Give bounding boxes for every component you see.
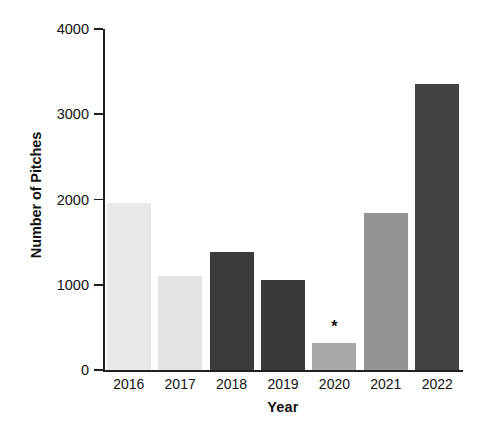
bar-2020 [312, 343, 356, 370]
bar-2016 [107, 203, 151, 370]
x-axis-title: Year [103, 399, 463, 415]
y-axis-tick-mark [94, 369, 103, 371]
y-axis-tick-mark [94, 199, 103, 201]
bar-2019 [261, 280, 305, 370]
y-axis-tick-label: 4000 [33, 21, 89, 37]
bar-2021 [364, 213, 408, 370]
bar-2017 [158, 276, 202, 370]
y-axis-tick-label: 3000 [33, 106, 89, 122]
bar-2022 [415, 84, 459, 370]
plot-area: * [103, 29, 463, 370]
y-axis-tick-mark [94, 284, 103, 286]
y-axis-tick-label: 0 [33, 362, 89, 378]
y-axis-tick-label: 2000 [33, 192, 89, 208]
y-axis-tick-mark [94, 28, 103, 30]
y-axis-tick-label: 1000 [33, 277, 89, 293]
bar-annotation-2020: * [314, 319, 354, 335]
x-axis-line [103, 370, 463, 372]
bar-2018 [210, 252, 254, 370]
bar-chart-figure: Number of Pitches 01000200030004000 * 20… [0, 0, 480, 431]
x-axis-tick-label-2022: 2022 [407, 376, 467, 392]
y-axis-tick-mark [94, 113, 103, 115]
